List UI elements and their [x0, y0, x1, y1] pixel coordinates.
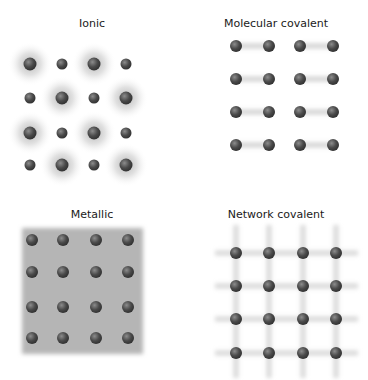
metallic-lattice — [22, 228, 143, 354]
molecular-lattice — [230, 40, 339, 151]
network-lattice — [215, 225, 358, 378]
molecular-bonds — [236, 46, 333, 145]
bonding-diagram — [0, 0, 368, 380]
ionic-lattice — [8, 42, 148, 187]
molecule-atoms — [230, 40, 339, 151]
network-atoms — [230, 247, 342, 359]
